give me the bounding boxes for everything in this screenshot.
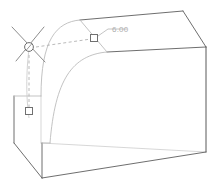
box-visible-edges-group — [14, 11, 206, 178]
edge-top-right-slope — [183, 11, 206, 47]
fillet-center-grip[interactable] — [12, 27, 45, 62]
fillet-dimension-label[interactable]: 6.00 — [112, 25, 129, 34]
fillet-arc-front — [50, 52, 107, 143]
radius-leader-lines-group — [29, 39, 91, 107]
edge-bottom-front-right — [42, 152, 206, 178]
hidden-edge-back-bottom-right — [41, 143, 206, 152]
radius-dashed-line-top — [36, 39, 91, 47]
fillet-radius-handle-side[interactable] — [26, 108, 33, 115]
fillet-radius-handle-top[interactable] — [91, 35, 98, 42]
edge-top-back — [80, 11, 183, 20]
hidden-edges-group — [41, 47, 206, 152]
3d-model-viewport[interactable]: 6.00 — [0, 0, 218, 190]
edge-bottom-front-left — [14, 143, 42, 178]
model-canvas[interactable]: 6.00 — [0, 0, 218, 190]
edge-top-front-right — [107, 47, 206, 52]
